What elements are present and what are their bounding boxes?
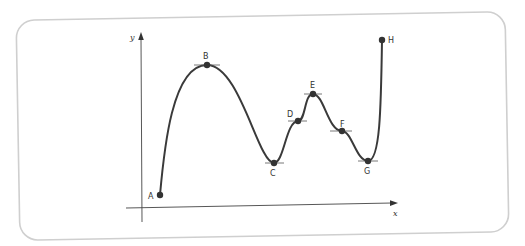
- function-graph-diagram: y x A B C D E F G H: [0, 0, 525, 246]
- point-H: [379, 37, 385, 43]
- point-A: [157, 192, 163, 198]
- point-E: [310, 91, 316, 97]
- label-H: H: [388, 36, 394, 45]
- diagram-frame: [16, 12, 509, 241]
- label-F: F: [340, 120, 345, 129]
- label-C: C: [270, 169, 276, 178]
- x-axis-label: x: [393, 209, 398, 218]
- point-C: [271, 160, 277, 166]
- point-D: [295, 118, 301, 124]
- label-B: B: [203, 52, 209, 61]
- label-A: A: [148, 192, 154, 201]
- label-E: E: [310, 81, 315, 90]
- label-D: D: [287, 110, 293, 119]
- point-B: [204, 62, 210, 68]
- point-G: [365, 158, 371, 164]
- y-axis-label: y: [129, 33, 135, 42]
- label-G: G: [364, 167, 370, 176]
